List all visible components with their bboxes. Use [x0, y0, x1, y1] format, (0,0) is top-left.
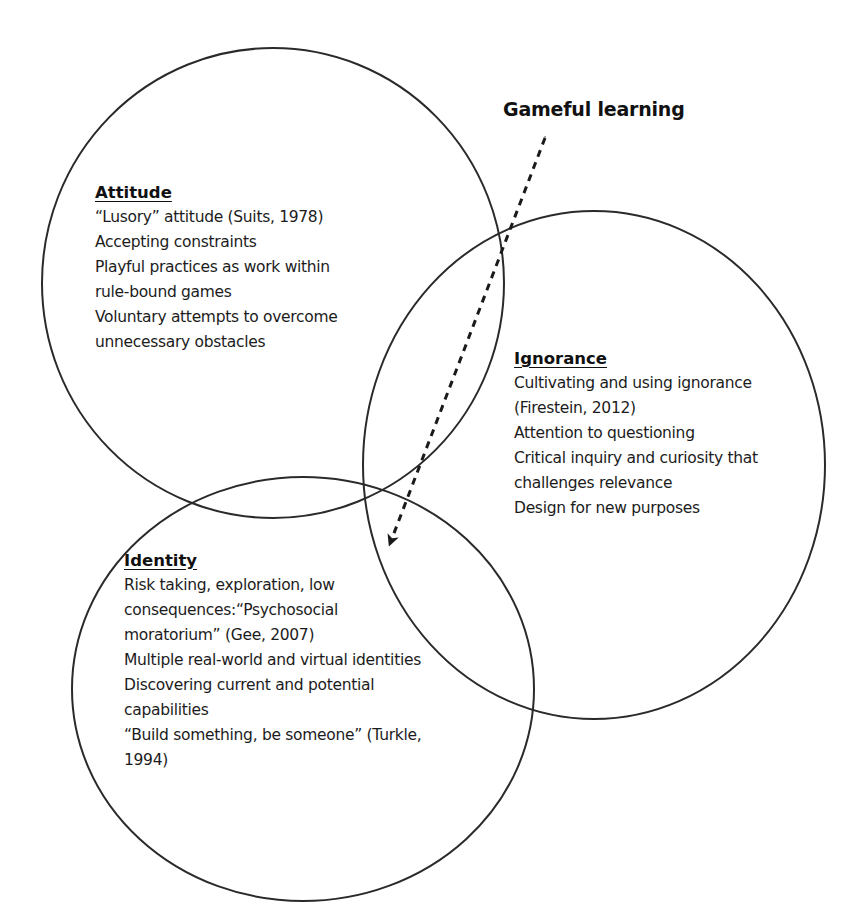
attitude-line: Playful practices as work within — [95, 255, 337, 280]
attitude-heading: Attitude — [95, 180, 337, 205]
ignorance-line: Design for new purposes — [514, 496, 758, 521]
ignorance-block: Ignorance Cultivating and using ignoranc… — [514, 346, 758, 521]
diagram-title: Gameful learning — [503, 98, 685, 120]
identity-line: moratorium” (Gee, 2007) — [124, 623, 421, 648]
identity-block: Identity Risk taking, exploration, low c… — [124, 548, 421, 773]
ignorance-line: Cultivating and using ignorance — [514, 371, 758, 396]
identity-line: capabilities — [124, 698, 421, 723]
identity-line: “Build something, be someone” (Turkle, — [124, 723, 421, 748]
ignorance-line: (Firestein, 2012) — [514, 396, 758, 421]
identity-line: 1994) — [124, 748, 421, 773]
attitude-line: Voluntary attempts to overcome — [95, 305, 337, 330]
identity-line: Multiple real-world and virtual identiti… — [124, 648, 421, 673]
attitude-line: “Lusory” attitude (Suits, 1978) — [95, 205, 337, 230]
attitude-line: Accepting constraints — [95, 230, 337, 255]
ignorance-line: challenges relevance — [514, 471, 758, 496]
identity-line: Risk taking, exploration, low — [124, 573, 421, 598]
arrow-origin-dot — [544, 136, 546, 138]
attitude-line: unnecessary obstacles — [95, 330, 337, 355]
ignorance-line: Attention to questioning — [514, 421, 758, 446]
ignorance-heading: Ignorance — [514, 346, 758, 371]
identity-line: Discovering current and potential — [124, 673, 421, 698]
venn-diagram: Gameful learning Attitude “Lusory” attit… — [0, 0, 844, 909]
ignorance-line: Critical inquiry and curiosity that — [514, 446, 758, 471]
identity-line: consequences:“Psychosocial — [124, 598, 421, 623]
identity-heading: Identity — [124, 548, 421, 573]
attitude-block: Attitude “Lusory” attitude (Suits, 1978)… — [95, 180, 337, 355]
attitude-line: rule-bound games — [95, 280, 337, 305]
